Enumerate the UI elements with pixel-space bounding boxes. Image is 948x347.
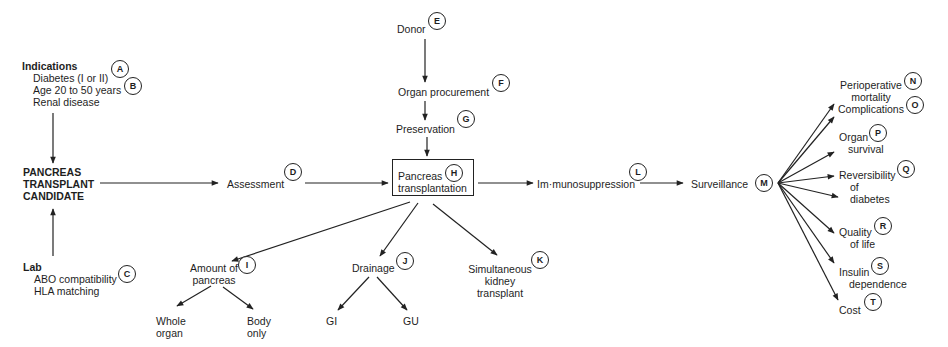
whole-line-1: Whole <box>156 315 186 327</box>
drainage-label: Drainage <box>352 262 395 274</box>
badge-s: S <box>871 257 889 275</box>
badge-e: E <box>428 12 446 30</box>
outcome-reversibility-line-1: Reversibility <box>839 169 896 181</box>
pancreas-transplant-flow-diagram: Indications Diabetes (I or II) Age 20 to… <box>0 0 948 347</box>
indications-heading: Indications <box>22 60 77 72</box>
outcome-insulin-line-1: Insulin <box>839 266 869 278</box>
transplantation-line-1: Pancreas <box>398 170 442 182</box>
outcome-quality-line-1: Quality <box>839 226 872 238</box>
indication-age: Age 20 to 50 years <box>33 84 121 96</box>
transplantation-line-2: transplantation <box>398 182 467 194</box>
amount-line-1: Amount of <box>186 262 242 274</box>
lab-abo: ABO compatibility <box>34 273 117 285</box>
outcome-perioperative-line-2: mortality <box>836 91 906 103</box>
outcome-reversibility-line-3: diabetes <box>850 193 890 205</box>
drainage-gu: GU <box>403 315 419 327</box>
badge-t: T <box>864 293 882 311</box>
badge-l: L <box>629 163 647 181</box>
badge-f: F <box>492 74 510 92</box>
whole-line-2: organ <box>156 327 183 339</box>
donor-label: Donor <box>397 23 426 35</box>
simultaneous-line-1: Simultaneous <box>466 263 534 275</box>
badge-a: A <box>111 60 129 78</box>
badge-k: K <box>531 251 549 269</box>
amount-line-2: pancreas <box>186 274 242 286</box>
immunosuppression-label: Im·munosuppression <box>537 178 635 190</box>
preservation-label: Preservation <box>396 123 455 135</box>
badge-g: G <box>457 110 475 128</box>
organ-procurement-label: Organ procurement <box>398 86 489 98</box>
simultaneous-line-3: transplant <box>466 287 534 299</box>
outcome-organ-line-1: Organ <box>839 131 868 143</box>
candidate-line-1: PANCREAS <box>23 166 81 178</box>
indication-renal: Renal disease <box>33 96 100 108</box>
badge-q: Q <box>897 160 915 178</box>
badge-j: J <box>396 252 414 270</box>
lab-heading: Lab <box>23 261 42 273</box>
candidate-line-2: TRANSPLANT <box>23 178 94 190</box>
body-line-2: only <box>247 327 266 339</box>
badge-d: D <box>284 163 302 181</box>
outcome-perioperative-line-1: Perioperative <box>836 79 906 91</box>
candidate-line-3: CANDIDATE <box>23 190 84 202</box>
badge-p: P <box>869 124 887 142</box>
badge-h: H <box>445 164 463 182</box>
badge-m: M <box>755 174 773 192</box>
lab-hla: HLA matching <box>34 285 99 297</box>
outcome-insulin-line-2: dependence <box>849 278 907 290</box>
badge-r: R <box>874 217 892 235</box>
body-line-1: Body <box>247 315 271 327</box>
outcome-complications: Complications <box>838 103 904 115</box>
simultaneous-line-2: kidney <box>466 275 534 287</box>
indication-diabetes: Diabetes (I or II) <box>33 72 108 84</box>
badge-n: N <box>904 72 922 90</box>
outcome-quality-line-2: of life <box>850 238 875 250</box>
badge-o: O <box>906 96 924 114</box>
outcome-reversibility-line-2: of <box>850 181 859 193</box>
outcome-organ-line-2: survival <box>848 143 884 155</box>
badge-i: I <box>238 256 256 274</box>
badge-b: B <box>124 77 142 95</box>
assessment-label: Assessment <box>227 178 284 190</box>
surveillance-label: Surveillance <box>691 178 748 190</box>
badge-c: C <box>118 265 136 283</box>
drainage-gi: GI <box>326 315 337 327</box>
outcome-cost: Cost <box>839 304 861 316</box>
